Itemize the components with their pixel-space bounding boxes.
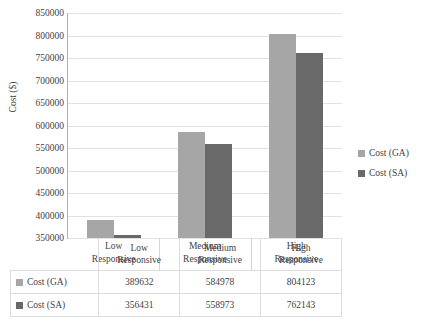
table-row: Cost (SA)356431558973762143 — [11, 294, 342, 317]
y-axis-tick-label: 500000 — [2, 166, 64, 176]
bar — [269, 34, 296, 238]
legend-label: Cost (GA) — [369, 148, 409, 158]
table-header-line: Medium — [180, 242, 260, 255]
table-series-label: Cost (GA) — [27, 277, 67, 287]
table-header-line: High — [261, 242, 341, 255]
legend-item[interactable]: Cost (GA) — [358, 143, 428, 163]
bar — [87, 220, 114, 238]
table-value-cell: 356431 — [99, 294, 180, 317]
series-swatch-icon — [16, 302, 23, 309]
legend-label: Cost (SA) — [369, 168, 407, 178]
table-value-cell: 804123 — [261, 271, 342, 294]
table-series-label: Cost (SA) — [27, 300, 65, 310]
bar-chart-figure: 8500008000007500007000006500006000005500… — [0, 0, 430, 327]
bar — [296, 53, 323, 238]
table-header-line: Responsive — [261, 254, 341, 267]
chart-legend: Cost (GA)Cost (SA) — [358, 143, 428, 183]
table-header-row: LowResponsiveMediumResponsiveHighRespons… — [11, 238, 342, 271]
legend-item[interactable]: Cost (SA) — [358, 163, 428, 183]
table-value-cell: 389632 — [99, 271, 180, 294]
gridline — [68, 13, 342, 14]
table-value-cell: 762143 — [261, 294, 342, 317]
y-axis-tick-label: 400000 — [2, 211, 64, 221]
legend-swatch-icon — [358, 150, 365, 157]
y-axis-title: Cost ($) — [8, 62, 18, 132]
y-axis-tick-label: 550000 — [2, 143, 64, 153]
bar — [178, 132, 205, 238]
series-swatch-icon — [16, 279, 23, 286]
gridline — [68, 36, 342, 37]
bar — [205, 144, 232, 238]
table-value-cell: 558973 — [180, 294, 261, 317]
table-header-cell: HighResponsive — [261, 238, 342, 271]
table-header-cell: LowResponsive — [99, 238, 180, 271]
y-axis-tick-label: 450000 — [2, 188, 64, 198]
table-header-line: Responsive — [180, 254, 260, 267]
table-value-cell: 584978 — [180, 271, 261, 294]
y-axis-tick-label: 800000 — [2, 31, 64, 41]
table-row: Cost (GA)389632584978804123 — [11, 271, 342, 294]
plot-area — [68, 13, 342, 238]
table-header-cell: MediumResponsive — [180, 238, 261, 271]
y-axis-tick-label: 850000 — [2, 8, 64, 18]
legend-swatch-icon — [358, 170, 365, 177]
table-corner-cell — [11, 238, 99, 271]
table-header-line: Low — [99, 242, 179, 255]
table-header-line: Responsive — [99, 254, 179, 267]
table-series-cell: Cost (SA) — [11, 294, 99, 317]
table-series-cell: Cost (GA) — [11, 271, 99, 294]
chart-data-table: LowResponsiveMediumResponsiveHighRespons… — [10, 238, 342, 317]
